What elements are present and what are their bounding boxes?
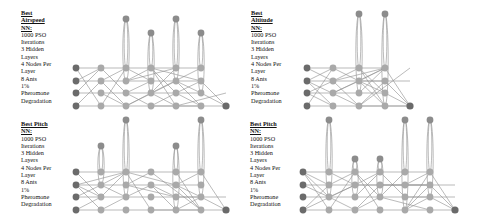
- input-node: [304, 103, 311, 110]
- hidden-node: [427, 182, 434, 189]
- hidden-node: [98, 182, 105, 189]
- hidden-node: [377, 169, 384, 176]
- input-node: [300, 194, 307, 201]
- hidden-node: [326, 194, 333, 201]
- input-node: [304, 78, 311, 85]
- hidden-node: [402, 169, 409, 176]
- hidden-node: [123, 207, 130, 214]
- input-node: [304, 90, 311, 97]
- hidden-node: [377, 182, 384, 189]
- hidden-node: [98, 103, 105, 110]
- hidden-node: [382, 90, 389, 97]
- recurrent-node: [123, 16, 130, 23]
- hidden-node: [382, 103, 389, 110]
- output-node: [406, 102, 413, 109]
- hidden-node: [123, 182, 130, 189]
- hidden-node: [382, 78, 389, 85]
- input-node: [304, 65, 311, 72]
- hidden-node: [98, 169, 105, 176]
- hidden-node: [356, 103, 363, 110]
- input-node: [73, 182, 80, 189]
- input-node: [300, 169, 307, 176]
- hidden-node: [148, 169, 155, 176]
- recurrent-node: [326, 117, 333, 124]
- hidden-node: [427, 169, 434, 176]
- hidden-node: [198, 169, 205, 176]
- input-node: [73, 207, 80, 214]
- hidden-node: [352, 207, 359, 214]
- input-node: [73, 90, 80, 97]
- hidden-node: [173, 103, 180, 110]
- hidden-node: [326, 182, 333, 189]
- hidden-node: [352, 182, 359, 189]
- recurrent-node: [198, 117, 205, 124]
- hidden-node: [98, 207, 105, 214]
- hidden-node: [98, 90, 105, 97]
- hidden-node: [198, 65, 205, 72]
- hidden-node: [148, 65, 155, 72]
- hidden-node: [148, 90, 155, 97]
- hidden-node: [198, 194, 205, 201]
- output-node: [222, 206, 229, 213]
- recurrent-node: [123, 117, 130, 124]
- input-node: [73, 169, 80, 176]
- output-node: [451, 206, 458, 213]
- input-node: [300, 182, 307, 189]
- hidden-node: [198, 78, 205, 85]
- hidden-node: [330, 78, 337, 85]
- input-node: [73, 103, 80, 110]
- hidden-node: [356, 90, 363, 97]
- hidden-node: [326, 169, 333, 176]
- hidden-node: [173, 65, 180, 72]
- recurrent-node: [148, 30, 155, 37]
- recurrent-node: [98, 143, 105, 150]
- hidden-node: [173, 78, 180, 85]
- hidden-node: [198, 182, 205, 189]
- hidden-node: [123, 103, 130, 110]
- hidden-node: [427, 194, 434, 201]
- airspeed-graph: [73, 16, 230, 110]
- recurrent-node: [173, 16, 180, 23]
- recurrent-node: [402, 117, 409, 124]
- hidden-node: [173, 90, 180, 97]
- hidden-node: [198, 207, 205, 214]
- pitch2-nodes: [300, 117, 459, 214]
- recurrent-node: [382, 11, 389, 18]
- hidden-node: [352, 169, 359, 176]
- hidden-node: [198, 103, 205, 110]
- recurrent-node: [356, 11, 363, 18]
- hidden-node: [330, 103, 337, 110]
- recurrent-node: [377, 156, 384, 163]
- hidden-node: [198, 90, 205, 97]
- hidden-node: [173, 182, 180, 189]
- hidden-node: [402, 194, 409, 201]
- recurrent-node: [198, 30, 205, 37]
- hidden-node: [377, 194, 384, 201]
- hidden-node: [148, 194, 155, 201]
- input-node: [73, 65, 80, 72]
- recurrent-node: [352, 156, 359, 163]
- hidden-node: [356, 78, 363, 85]
- hidden-node: [98, 65, 105, 72]
- hidden-node: [148, 78, 155, 85]
- pitch-graph: [73, 117, 230, 214]
- hidden-node: [148, 103, 155, 110]
- hidden-node: [377, 207, 384, 214]
- hidden-node: [98, 194, 105, 201]
- hidden-node: [352, 194, 359, 201]
- hidden-node: [123, 65, 130, 72]
- hidden-node: [427, 207, 434, 214]
- hidden-node: [148, 207, 155, 214]
- input-node: [73, 194, 80, 201]
- input-node: [73, 78, 80, 85]
- input-node: [300, 207, 307, 214]
- hidden-node: [123, 194, 130, 201]
- hidden-node: [402, 207, 409, 214]
- hidden-node: [98, 78, 105, 85]
- pitch-nodes: [73, 117, 230, 214]
- hidden-node: [123, 169, 130, 176]
- neural-network-graphs: [0, 0, 479, 224]
- hidden-node: [330, 65, 337, 72]
- hidden-node: [148, 182, 155, 189]
- hidden-node: [382, 65, 389, 72]
